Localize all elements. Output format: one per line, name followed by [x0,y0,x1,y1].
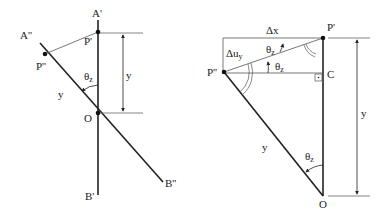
point-p-dprime [222,70,227,75]
label-delta-u: Δuy [226,47,243,61]
label-y-radius: y [262,141,268,153]
axis-a-dprime-b-dprime [40,43,163,182]
double-arc-p-dprime-2 [242,63,253,95]
double-arc-p-dprime [240,64,249,92]
double-arc-p-prime [306,44,316,54]
point-p-prime [321,36,326,41]
label-c: C [327,68,334,80]
label-a-dprime: A'' [20,29,32,41]
label-b-prime: B' [85,190,94,202]
label-a-prime: A' [92,7,102,19]
label-b-dprime: B'' [165,177,176,189]
line-p-dprime-o [224,72,323,196]
left-figure: A' A'' P' P'' θz y y O B' B'' [20,7,176,202]
label-delta-x: Δx [266,24,279,36]
right-angle-dot [318,77,320,79]
label-y-dimension: y [126,69,132,81]
label-p-dprime: P'' [207,66,217,78]
point-p-prime [96,30,101,35]
label-p-prime: P' [327,21,335,33]
label-o: O [319,198,327,210]
label-p-dprime: P'' [36,60,46,72]
right-figure: Δx P' Δuy θz θz P'' C y y θz O [207,21,370,210]
theta-arc [82,85,98,91]
label-theta-middle: θz [275,60,284,74]
double-arc-p-prime-2 [304,45,315,57]
label-y-dimension: y [361,107,367,119]
label-theta-top: θz [266,43,275,57]
point-p-dprime [43,52,48,57]
label-y-radius: y [58,88,64,100]
rotation-diagram: A' A'' P' P'' θz y y O B' B'' Δx [0,0,389,216]
label-theta-bottom: θz [305,150,314,164]
point-o [96,111,101,116]
label-o: O [84,112,92,124]
theta-arc-top [280,44,283,52]
label-p-prime: P' [84,35,92,47]
label-theta: θz [84,70,93,84]
theta-arc-bottom [306,165,323,172]
